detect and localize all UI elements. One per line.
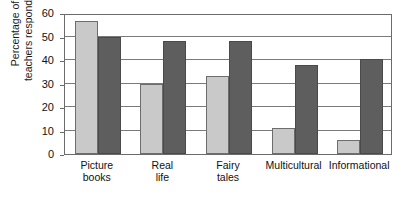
y-axis-tick-label: 30	[32, 79, 54, 90]
bar	[163, 41, 186, 154]
y-axis-tick-label: 10	[32, 126, 54, 137]
bars-layer	[65, 15, 391, 154]
x-axis-category-label: Informational	[318, 159, 400, 171]
y-axis-tick-label: 40	[32, 55, 54, 66]
bar	[75, 21, 98, 154]
y-axis-tick-label: 50	[32, 32, 54, 43]
bar	[272, 128, 295, 154]
bar	[229, 41, 252, 154]
bar-chart: Percentage of teachers responding 010203…	[0, 0, 403, 203]
x-axis-category-label-line: Informational	[318, 159, 400, 171]
y-axis-tick-mark	[60, 155, 64, 156]
y-axis-tick-label: 0	[32, 149, 54, 160]
y-axis-tick-label: 60	[32, 8, 54, 19]
y-axis-tick-label: 20	[32, 102, 54, 113]
bar	[295, 65, 318, 154]
bar	[140, 84, 163, 155]
bar	[98, 37, 121, 155]
bar	[360, 59, 383, 154]
x-axis-category-label-line: tales	[187, 171, 269, 183]
bar	[206, 76, 229, 154]
plot-area	[64, 14, 392, 155]
bar	[337, 140, 360, 154]
